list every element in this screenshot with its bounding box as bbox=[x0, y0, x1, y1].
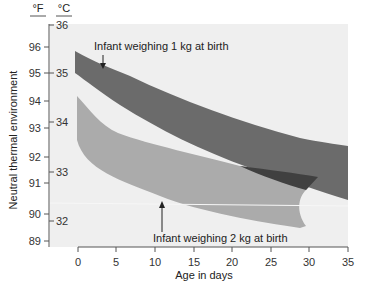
x-tick-30: 30 bbox=[303, 256, 315, 268]
x-tick-35: 35 bbox=[342, 256, 354, 268]
f-tick-96: 96 bbox=[29, 41, 41, 53]
c-unit-label: °C bbox=[58, 2, 70, 14]
chart: °F °C 96 95 94 93 92 91 90 89 36 35 34 3… bbox=[0, 0, 366, 290]
y-axis-title: Neutral thermal environment bbox=[7, 71, 19, 210]
f-unit-label: °F bbox=[32, 2, 43, 14]
f-tick-92: 92 bbox=[29, 151, 41, 163]
x-tick-0: 0 bbox=[75, 256, 81, 268]
c-tick-35: 35 bbox=[56, 67, 68, 79]
f-tick-89: 89 bbox=[29, 235, 41, 247]
x-tick-25: 25 bbox=[265, 256, 277, 268]
f-tick-95: 95 bbox=[29, 67, 41, 79]
f-tick-93: 93 bbox=[29, 122, 41, 134]
x-tick-15: 15 bbox=[188, 256, 200, 268]
c-tick-32: 32 bbox=[56, 215, 68, 227]
f-tick-91: 91 bbox=[29, 177, 41, 189]
c-tick-33: 33 bbox=[56, 166, 68, 178]
c-tick-36: 36 bbox=[56, 19, 68, 31]
x-ticks bbox=[78, 247, 348, 252]
x-tick-20: 20 bbox=[226, 256, 238, 268]
f-ticks bbox=[44, 47, 49, 241]
f-tick-94: 94 bbox=[29, 95, 41, 107]
annotation-2kg: Infant weighing 2 kg at birth bbox=[153, 232, 288, 244]
f-tick-90: 90 bbox=[29, 208, 41, 220]
x-axis-title: Age in days bbox=[175, 269, 233, 281]
annotation-1kg: Infant weighing 1 kg at birth bbox=[94, 40, 229, 52]
c-tick-34: 34 bbox=[56, 116, 68, 128]
x-tick-5: 5 bbox=[113, 256, 119, 268]
x-tick-10: 10 bbox=[149, 256, 161, 268]
